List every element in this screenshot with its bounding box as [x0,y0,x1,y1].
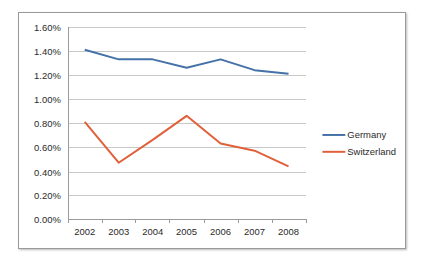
y-axis-tick-label: 1.20% [34,70,61,81]
series-lines [85,50,289,167]
y-axis-tick-label: 1.40% [34,46,61,57]
legend-label-switzerland: Switzerland [347,146,396,157]
y-axis-tick-label: 1.00% [34,94,61,105]
x-axis-tick-label: 2006 [210,226,231,237]
y-axis-tick-label: 0.60% [34,142,61,153]
legend-label-germany: Germany [347,129,386,140]
y-axis-tick-label: 0.00% [34,214,61,225]
y-axis-tick-label: 0.40% [34,167,61,178]
chart-container: 0.00%0.20%0.40%0.60%0.80%1.00%1.20%1.40%… [18,12,406,249]
y-axis-tick-label: 0.20% [34,190,61,201]
y-axis-tick-label: 0.80% [34,118,61,129]
chart-legend: GermanySwitzerland [322,129,396,157]
x-axis-tick-label: 2008 [278,226,299,237]
y-axis-tick-label: 1.60% [34,22,61,33]
series-line-germany [85,50,289,74]
x-axis-tick-label: 2004 [142,226,163,237]
gridlines [68,27,306,219]
x-axis-tick-label: 2002 [74,226,95,237]
line-chart: 0.00%0.20%0.40%0.60%0.80%1.00%1.20%1.40%… [19,13,405,248]
x-axis-tick-labels: 2002200320042005200620072008 [74,226,299,237]
y-axis-tick-labels: 0.00%0.20%0.40%0.60%0.80%1.00%1.20%1.40%… [34,22,61,225]
x-axis-tick-label: 2005 [176,226,197,237]
x-axis-tick-label: 2007 [244,226,265,237]
x-axis-tick-label: 2003 [108,226,129,237]
